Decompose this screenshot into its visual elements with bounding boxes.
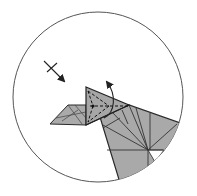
origami-diagram: Circular zoom callout showing folding st… [0, 0, 197, 196]
fold-point [91, 104, 94, 107]
diagram-canvas [0, 0, 197, 196]
